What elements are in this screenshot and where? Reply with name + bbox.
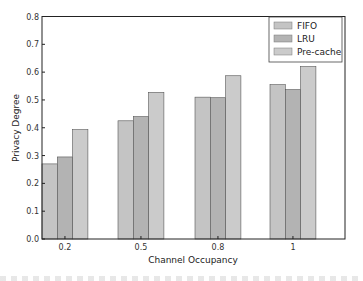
legend-swatch-fifo: [274, 22, 292, 29]
y-tick-label: 0.2: [26, 179, 39, 188]
bar-pre-cache-1: [301, 67, 316, 239]
bar-fifo-0.2: [42, 164, 57, 239]
cut-off-caption: [0, 276, 363, 281]
y-tick-label: 0.0: [26, 235, 39, 244]
bar-fifo-0.5: [118, 121, 133, 239]
x-tick-label: 0.2: [59, 243, 72, 252]
legend: FIFOLRUPre-cache: [269, 17, 342, 62]
bar-lru-0.8: [210, 98, 225, 239]
legend-label-pre-cache: Pre-cache: [297, 47, 342, 57]
y-tick-label: 0.6: [26, 68, 39, 77]
bar-fifo-0.8: [195, 97, 210, 239]
x-tick-label: 0.8: [212, 243, 225, 252]
bar-lru-0.5: [133, 117, 148, 239]
legend-label-lru: LRU: [297, 34, 315, 44]
bars-group: [42, 67, 316, 239]
bar-pre-cache-0.2: [73, 130, 88, 239]
y-tick-label: 0.8: [26, 13, 39, 22]
bar-lru-0.2: [57, 157, 72, 239]
x-axis-ticks: 0.20.50.81: [59, 236, 296, 252]
y-tick-label: 0.7: [26, 40, 39, 49]
x-axis-label: Channel Occupancy: [148, 255, 238, 265]
bar-pre-cache-0.5: [149, 92, 164, 239]
bar-chart: 0.00.10.20.30.40.50.60.70.8 0.20.50.81 C…: [0, 0, 363, 281]
y-tick-label: 0.5: [26, 96, 39, 105]
bar-lru-1: [285, 90, 300, 239]
legend-swatch-pre-cache: [274, 48, 292, 55]
x-tick-label: 0.5: [135, 243, 148, 252]
legend-label-fifo: FIFO: [297, 21, 317, 31]
y-tick-label: 0.3: [26, 152, 39, 161]
y-tick-label: 0.4: [26, 124, 39, 133]
bar-fifo-1: [270, 85, 285, 239]
x-tick-label: 1: [290, 243, 295, 252]
y-tick-label: 0.1: [26, 207, 39, 216]
legend-swatch-lru: [274, 35, 292, 42]
y-axis-label: Privacy Degree: [11, 93, 21, 162]
bar-pre-cache-0.8: [226, 76, 241, 239]
